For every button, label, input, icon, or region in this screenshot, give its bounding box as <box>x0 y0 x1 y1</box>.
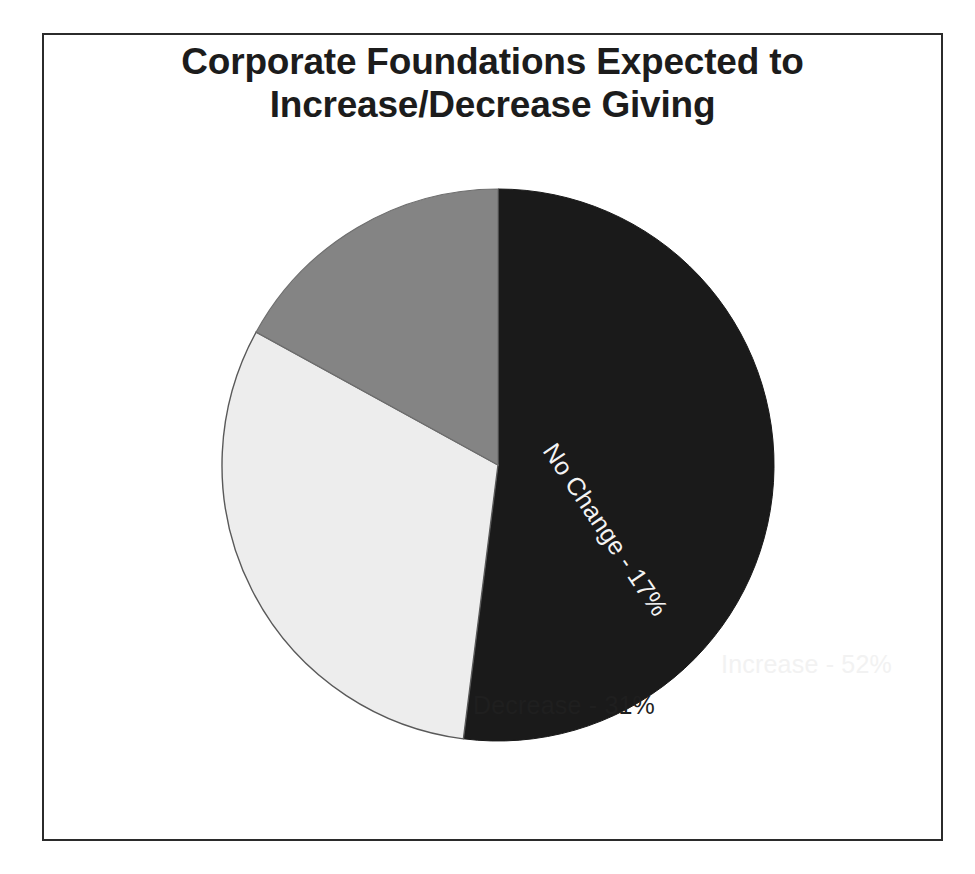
pie-label-decrease: Decrease - 31% <box>473 691 655 720</box>
pie-chart: Increase - 52% Decrease - 31% No Change … <box>221 188 775 742</box>
slide-canvas: Corporate Foundations Expected to Increa… <box>0 0 975 874</box>
pie-chart-svg <box>221 188 775 742</box>
pie-label-increase: Increase - 52% <box>721 650 892 679</box>
page-title: Corporate Foundations Expected to Increa… <box>60 40 925 127</box>
